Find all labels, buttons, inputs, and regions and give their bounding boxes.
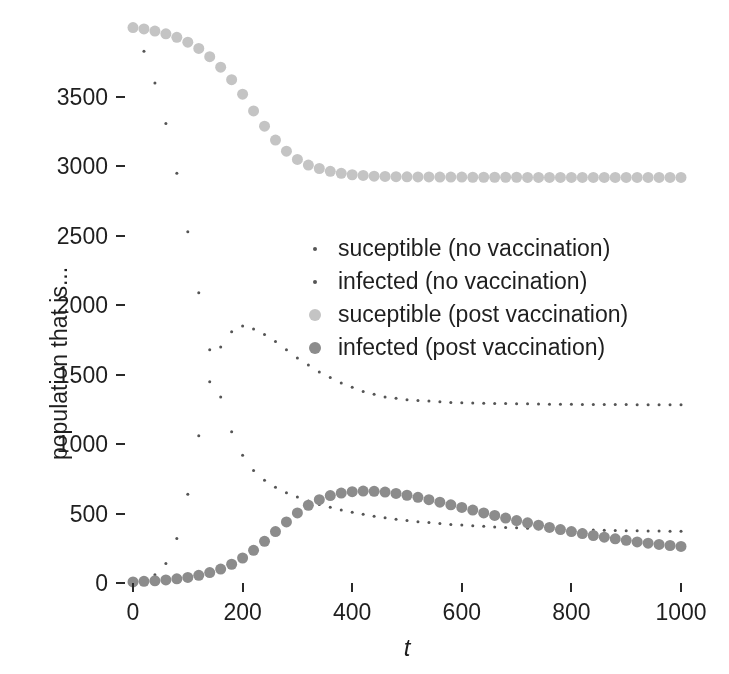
y-tickmark: [116, 374, 125, 376]
x-tick-label: 600: [443, 601, 481, 624]
legend-marker-icon: [292, 342, 338, 354]
x-tick-label: 1000: [655, 601, 706, 624]
y-tickmark: [116, 582, 125, 584]
legend-item[interactable]: suceptible (no vaccination): [292, 232, 628, 265]
legend-marker-icon: [292, 247, 338, 251]
y-tick-label: 0: [95, 572, 108, 595]
y-tick-label: 3500: [57, 86, 108, 109]
x-tick-label: 800: [552, 601, 590, 624]
legend-item-label: suceptible (post vaccination): [338, 301, 628, 328]
x-tickmark: [132, 583, 134, 592]
legend-marker-icon: [292, 309, 338, 321]
y-tickmark: [116, 443, 125, 445]
x-tickmark: [242, 583, 244, 592]
legend-item-label: infected (post vaccination): [338, 334, 605, 361]
chart-figure: 0500100015002000250030003500 02004006008…: [0, 0, 729, 674]
y-tickmark: [116, 96, 125, 98]
x-tickmark: [680, 583, 682, 592]
y-axis-label: population that is...: [46, 267, 73, 460]
y-tickmark: [116, 235, 125, 237]
legend-item[interactable]: infected (no vaccination): [292, 265, 628, 298]
legend-item[interactable]: infected (post vaccination): [292, 331, 628, 364]
x-tickmark: [351, 583, 353, 592]
legend-item-label: infected (no vaccination): [338, 268, 587, 295]
x-tick-label: 200: [223, 601, 261, 624]
x-tick-label: 0: [127, 601, 140, 624]
y-tickmark: [116, 304, 125, 306]
y-tick-label: 500: [70, 502, 108, 525]
y-tickmark: [116, 513, 125, 515]
x-tickmark: [570, 583, 572, 592]
y-tick-label: 2500: [57, 224, 108, 247]
x-tick-label: 400: [333, 601, 371, 624]
legend-marker-icon: [292, 280, 338, 284]
legend-item-label: suceptible (no vaccination): [338, 235, 610, 262]
y-tickmark: [116, 165, 125, 167]
x-axis-label: t: [404, 634, 411, 662]
y-tick-label: 3000: [57, 155, 108, 178]
x-tickmark: [461, 583, 463, 592]
chart-legend: suceptible (no vaccination)infected (no …: [292, 232, 628, 364]
legend-item[interactable]: suceptible (post vaccination): [292, 298, 628, 331]
